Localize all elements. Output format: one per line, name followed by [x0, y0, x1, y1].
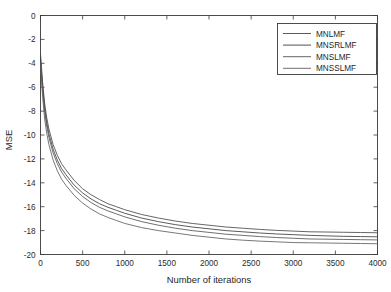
x-tick-label: 1500 [158, 259, 177, 268]
mse-convergence-chart: 0-2-4-6-8-10-12-14-16-18-20 050010001500… [0, 0, 391, 292]
x-tick-label: 1000 [116, 259, 135, 268]
y-tick-label: 0 [31, 12, 36, 21]
x-tick-label: 0 [38, 259, 43, 268]
legend-label-mnlmf[interactable]: MNLMF [316, 30, 345, 39]
y-tick-label: -14 [24, 179, 36, 188]
x-tick-label: 2000 [200, 259, 219, 268]
y-tick-label: -18 [24, 227, 36, 236]
chart-figure: 0-2-4-6-8-10-12-14-16-18-20 050010001500… [0, 0, 391, 292]
y-tick-label: -10 [24, 131, 36, 140]
legend-label-mnsrlmf[interactable]: MNSRLMF [316, 41, 356, 50]
legend-label-mnsslmf[interactable]: MNSSLMF [316, 64, 356, 73]
y-tick-label: -16 [24, 203, 36, 212]
y-tick-label: -20 [24, 251, 36, 260]
legend-label-mnslmf[interactable]: MNSLMF [316, 53, 351, 62]
x-tick-label: 3000 [284, 259, 303, 268]
y-axis-title: MSE [3, 130, 14, 150]
y-tick-label: -4 [28, 59, 36, 68]
x-tick-label: 500 [76, 259, 90, 268]
x-tick-label: 3500 [326, 259, 345, 268]
x-axis-title: Number of iterations [167, 274, 252, 285]
top-crop-artifact [0, 0, 391, 9]
legend[interactable]: MNLMFMNSRLMFMNSLMFMNSSLMF [278, 24, 377, 75]
x-tick-label: 4000 [368, 259, 387, 268]
y-tick-label: -12 [24, 155, 36, 164]
y-tick-label: -6 [28, 83, 36, 92]
y-tick-label: -8 [28, 107, 36, 116]
y-tick-label: -2 [28, 35, 36, 44]
x-tick-label: 2500 [242, 259, 261, 268]
